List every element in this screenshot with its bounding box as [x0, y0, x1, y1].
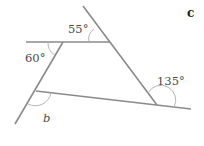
right-transversal-line — [83, 6, 157, 105]
angle-label-b: b — [43, 111, 50, 125]
angle-label-55: 55° — [68, 22, 88, 36]
angle-arc-60 — [48, 42, 55, 55]
part-label: c — [187, 6, 194, 20]
bottom-line — [36, 91, 191, 109]
diagram-svg: c 55° 60° 135° b — [0, 0, 204, 146]
angle-label-60: 60° — [25, 51, 45, 65]
geometry-diagram: c 55° 60° 135° b — [0, 0, 204, 146]
angle-arc-55 — [89, 29, 94, 42]
angle-label-135: 135° — [157, 74, 185, 88]
